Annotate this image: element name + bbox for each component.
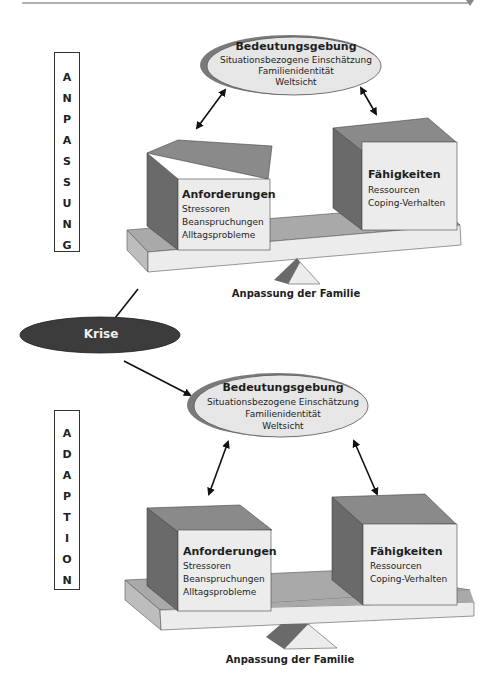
top-faehigkeiten-line: Ressourcen	[368, 184, 420, 196]
top-ellipse-title: Bedeutungsgebung	[235, 40, 356, 53]
top-anforderungen-line: Stressoren	[182, 203, 230, 215]
phase-letter: D	[62, 444, 71, 465]
bottom-faehigkeiten-title: Fähigkeiten	[370, 545, 443, 558]
bottom-anforderungen-line: Alltagsprobleme	[183, 586, 256, 598]
arrow-ellipse-to-anforderungen-bottom	[209, 442, 228, 494]
phase-letter: P	[63, 486, 71, 507]
top-ellipse-line: Familienidentität	[258, 66, 333, 77]
bottom-ellipse-line: Weltsicht	[262, 421, 303, 432]
phase-letter: N	[62, 570, 71, 591]
bottom-ellipse-line: Situationsbezogene Einschätzung	[207, 397, 359, 408]
top-ellipse-line: Weltsicht	[275, 77, 316, 88]
krise-label: Krise	[84, 327, 119, 341]
phase-letter: P	[63, 109, 71, 130]
phase-letter: A	[63, 130, 72, 151]
bottom-anforderungen-title: Anforderungen	[183, 545, 277, 558]
bottom-fulcrum	[266, 624, 337, 649]
top-fulcrum	[274, 258, 320, 284]
phase-letter: A	[63, 423, 72, 444]
phase-label-adaption: A D A P T I O N	[54, 410, 80, 590]
arrow-from-krise	[124, 361, 190, 395]
top-faehigkeiten-line: Coping-Verhalten	[368, 197, 445, 209]
arrow-ellipse-to-faehigkeiten	[361, 88, 376, 114]
phase-letter: O	[62, 549, 71, 570]
top-ellipse-line: Situationsbezogene Einschätzung	[220, 55, 372, 66]
phase-letter: T	[63, 507, 71, 528]
phase-letter: U	[63, 193, 72, 214]
bottom-faehigkeiten-line: Coping-Verhalten	[370, 573, 447, 585]
phase-letter: N	[62, 88, 71, 109]
bottom-anforderungen-line: Beanspruchungen	[183, 573, 265, 585]
arrow-ellipse-to-faehigkeiten-bottom	[354, 441, 377, 494]
phase-letter: I	[65, 528, 69, 549]
bottom-faehigkeiten-line: Ressourcen	[370, 560, 422, 572]
bottom-anforderungen-line: Stressoren	[183, 560, 231, 572]
top-anforderungen-line: Beanspruchungen	[182, 216, 264, 228]
top-anforderungen-line: Alltagsprobleme	[182, 229, 255, 241]
phase-letter: G	[62, 235, 71, 256]
top-balance-caption: Anpassung der Familie	[232, 288, 360, 299]
phase-letter: A	[63, 465, 72, 486]
arrow-ellipse-to-anforderungen	[197, 90, 225, 128]
top-faehigkeiten-title: Fähigkeiten	[368, 168, 441, 181]
phase-letter: A	[63, 67, 72, 88]
bottom-ellipse-line: Familienidentität	[245, 409, 320, 420]
bottom-balance-caption: Anpassung der Familie	[226, 654, 354, 665]
phase-letter: N	[62, 214, 71, 235]
top-anforderungen-title: Anforderungen	[182, 188, 276, 201]
phase-letter: S	[63, 151, 71, 172]
phase-label-anpassung: A N P A S S U N G	[54, 52, 80, 252]
bottom-ellipse-title: Bedeutungsgebung	[222, 381, 343, 394]
phase-letter: S	[63, 172, 71, 193]
